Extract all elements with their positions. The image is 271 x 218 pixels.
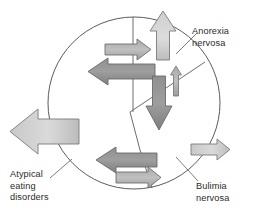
label-bulimia-nervosa: Bulimia nervosa: [196, 181, 229, 204]
leader-line-bulimia: [176, 157, 198, 181]
down-arrow-large: [146, 76, 172, 130]
left-arrow-upper: [88, 58, 155, 85]
right-arrow-upper: [105, 39, 151, 60]
diagram-canvas: Anorexia nervosa Bulimia nervosa Atypica…: [0, 0, 271, 218]
label-atypical-eating-disorders: Atypical eating disorders: [10, 169, 49, 204]
left-arrow-outer: [10, 109, 79, 154]
right-arrow-lower: [116, 167, 161, 188]
leader-line-atypical: [50, 159, 72, 178]
label-anorexia-nervosa: Anorexia nervosa: [192, 26, 229, 49]
up-arrow-small: [171, 66, 182, 96]
up-arrow-large: [150, 11, 176, 60]
